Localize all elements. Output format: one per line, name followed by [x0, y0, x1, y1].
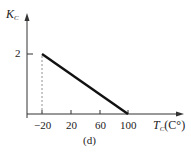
x-axis-label-main: T: [153, 118, 160, 132]
x-axis-label-unit: (C°): [164, 118, 185, 132]
figure-caption: (d): [83, 135, 96, 146]
x-axis-label: TC(C°): [153, 120, 185, 135]
x-tick-label-100: 100: [120, 120, 137, 131]
x-tick-label-20: 20: [66, 120, 77, 131]
y-tick-label-2: 2: [15, 48, 21, 59]
x-axis-arrow-icon: [176, 112, 184, 117]
y-axis-label-sub: C: [14, 14, 19, 22]
y-axis-arrow-icon: [25, 13, 30, 21]
data-line: [42, 54, 128, 114]
x-tick-label-60: 60: [95, 120, 106, 131]
x-tick-label--20: −20: [34, 120, 51, 131]
y-axis-label-main: K: [6, 7, 14, 21]
y-axis-label: KC: [6, 9, 19, 24]
